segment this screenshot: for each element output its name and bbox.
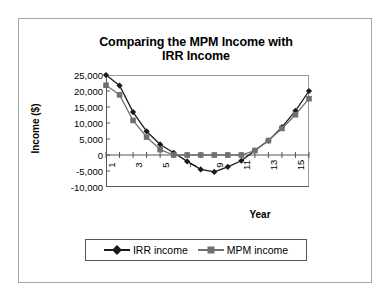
legend-label-mpm-income: MPM income — [227, 244, 288, 256]
legend-marker-diamond-icon — [104, 244, 130, 256]
legend-label-irr-income: IRR income — [133, 244, 188, 256]
x-axis-title: Year — [225, 209, 295, 220]
chart-title-line-2: IRR Income — [19, 49, 373, 63]
y-tick-label: 20,000 — [55, 86, 103, 97]
x-tick-label: 7 — [187, 150, 198, 180]
y-tick-label: 0 — [55, 150, 103, 161]
series-mpm-income — [103, 82, 312, 157]
chart-title: Comparing the MPM Income with IRR Income — [19, 35, 373, 63]
x-tick-label: 3 — [133, 150, 144, 180]
y-tick-label: 5,000 — [55, 134, 103, 145]
y-axis-tick-labels: 25,00020,00015,00010,0005,0000-5,000-10,… — [49, 75, 103, 187]
y-axis-title: Income ($) — [30, 84, 41, 174]
y-tick-label: -10,000 — [55, 182, 103, 193]
legend-marker-square-icon — [198, 244, 224, 256]
chart-title-line-1: Comparing the MPM Income with — [99, 35, 293, 49]
x-tick-label: 15 — [295, 150, 306, 180]
y-tick-label: 25,000 — [55, 70, 103, 81]
x-tick-label: 11 — [241, 150, 252, 180]
x-tick-label: 9 — [214, 150, 225, 180]
legend-item-mpm-income: MPM income — [198, 244, 288, 256]
x-tick-label: 5 — [160, 150, 171, 180]
y-tick-label: 10,000 — [55, 118, 103, 129]
figure-frame: Comparing the MPM Income with IRR Income… — [18, 18, 372, 283]
x-axis-tick-labels: 13579111315 — [106, 165, 309, 205]
x-tick-label: 1 — [106, 150, 117, 180]
legend-item-irr-income: IRR income — [104, 244, 188, 256]
chart-legend: IRR income MPM income — [85, 239, 307, 261]
x-tick-label: 13 — [268, 150, 279, 180]
y-tick-label: 15,000 — [55, 102, 103, 113]
y-tick-label: -5,000 — [55, 166, 103, 177]
